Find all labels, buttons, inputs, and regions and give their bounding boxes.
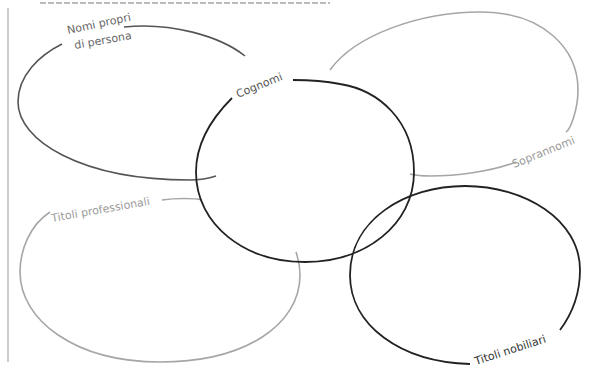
ellipse-soprannomi: Soprannomi [330,12,578,176]
label-titoli-professionali: Titoli professionali [49,195,151,225]
diagram-canvas: Nomi propri di persona Soprannomi Titoli… [0,0,593,377]
ellipse-nomi-propri: Nomi propri di persona [18,11,245,180]
label-titoli-nobiliari: Titoli nobiliari [472,333,548,369]
label-soprannomi: Soprannomi [510,134,576,171]
ellipse-titoli-professionali: Titoli professionali [20,195,300,362]
label-cognomi: Cognomi [234,70,284,100]
ellipse-cognomi: Cognomi [196,70,414,262]
ellipse-titoli-nobiliari: Titoli nobiliari [350,186,580,368]
